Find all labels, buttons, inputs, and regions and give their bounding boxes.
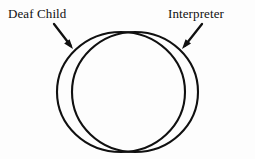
circle-deaf-child bbox=[57, 32, 185, 152]
label-deaf-child: Deaf Child bbox=[8, 7, 66, 21]
label-interpreter: Interpreter bbox=[168, 7, 224, 21]
arrow-interpreter bbox=[182, 24, 202, 49]
arrow-deaf-child bbox=[54, 24, 73, 49]
venn-diagram-svg bbox=[0, 0, 255, 159]
diagram-canvas: Deaf Child Interpreter bbox=[0, 0, 255, 159]
circle-interpreter bbox=[72, 32, 198, 152]
